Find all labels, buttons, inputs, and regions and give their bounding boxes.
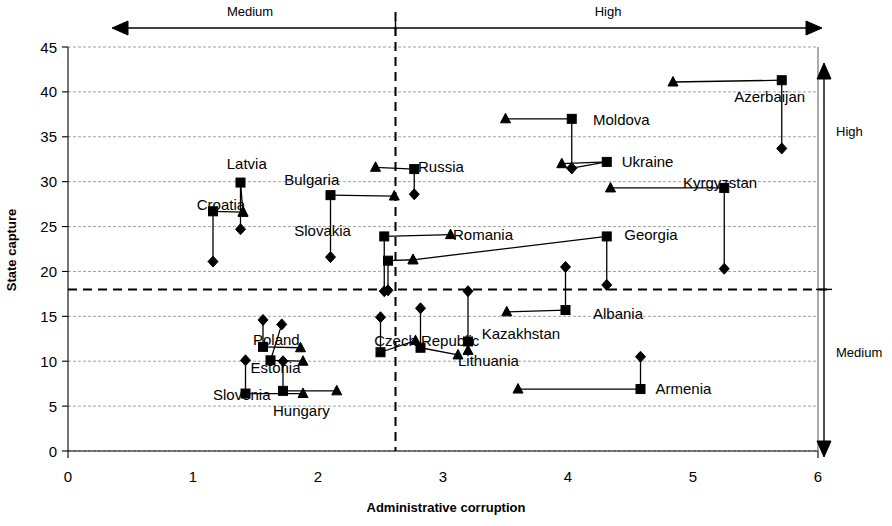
marker-diamond [326,252,336,263]
y-tick-label: 15 [40,308,57,325]
right-axis-high-label: High [836,124,863,139]
marker-triangle [501,113,511,123]
marker-square [236,178,245,187]
marker-triangle [389,191,399,201]
country-label: Poland [253,331,300,348]
country-labels: CroatiaLatviaBulgariaSlovakiaRussiaRoman… [197,88,805,419]
x-tick-label: 2 [314,468,322,485]
y-tick-label: 30 [40,173,57,190]
connector-horizontal [384,235,450,237]
country-label: Moldova [593,111,650,128]
country-label: Ukraine [622,153,674,170]
country-label: Hungary [273,402,330,419]
y-tick-label: 10 [40,353,57,370]
y-tick-label: 20 [40,263,57,280]
top-arrow-left-head [112,21,128,35]
y-tick-label: 35 [40,128,57,145]
marker-diamond [777,143,787,154]
right-arrow-down-head [817,441,831,457]
x-tick-label: 5 [689,468,697,485]
marker-triangle [606,182,616,192]
x-tick-label: 6 [814,468,822,485]
marker-square [602,232,611,241]
country-label: Kyrgyzstan [683,174,757,191]
country-label: Czech Republic [374,332,480,349]
country-label: Bulgaria [284,171,340,188]
right-axis-medium-label: Medium [836,345,882,360]
marker-square [602,157,611,166]
y-tick-label: 25 [40,218,57,235]
marker-square [561,306,570,315]
marker-square [567,114,576,123]
x-tick-label: 4 [564,468,572,485]
country-label: Armenia [656,380,713,397]
country-label: Kazakhstan [482,325,560,342]
top-arrow-right-head [806,21,822,35]
y-tick-label: 0 [49,443,57,460]
marker-diamond [241,355,251,366]
marker-diamond [409,189,419,200]
country-label: Russia [418,158,465,175]
marker-diamond [567,163,577,174]
right-arrow-up-head [817,63,831,79]
marker-diamond [277,319,287,330]
y-tick-label: 40 [40,83,57,100]
chart-container: CroatiaLatviaBulgariaSlovakiaRussiaRoman… [0,0,892,526]
connector-horizontal [507,310,566,312]
country-label: Croatia [197,196,246,213]
marker-diamond [376,312,386,323]
marker-diamond [463,286,473,297]
country-label: Albania [593,305,644,322]
scatter-chart: CroatiaLatviaBulgariaSlovakiaRussiaRoman… [0,0,892,526]
country-label: Georgia [624,226,678,243]
country-label: Romania [453,226,514,243]
country-label: Latvia [227,155,268,172]
axes: 0510152025303540450123456 [40,39,822,486]
marker-square [636,385,645,394]
top-axis-medium-label: Medium [227,4,273,19]
x-tick-label: 1 [189,468,197,485]
marker-triangle [371,162,381,172]
marker-diamond [236,224,246,235]
y-axis-title: State capture [4,209,19,291]
marker-diamond [636,351,646,362]
marker-triangle [668,77,678,87]
connector-horizontal [376,167,415,169]
marker-square [777,76,786,85]
x-tick-label: 3 [439,468,447,485]
y-tick-label: 5 [49,398,57,415]
x-axis-title: Administrative corruption [367,500,526,515]
marker-square [279,386,288,395]
marker-diamond [719,263,729,274]
marker-triangle [332,385,342,395]
marker-square [384,256,393,265]
country-label: Azerbaijan [734,88,805,105]
country-label: Slovakia [294,222,351,239]
marker-diamond [208,256,218,267]
y-tick-label: 45 [40,39,57,56]
marker-diamond [416,303,426,314]
country-label: Slovenia [213,386,271,403]
marker-square [380,232,389,241]
top-axis-high-label: High [595,4,622,19]
x-tick-label: 0 [64,468,72,485]
connector-horizontal [331,195,395,196]
country-label: Estonia [251,359,302,376]
marker-diamond [561,261,571,272]
country-label: Lithuania [458,352,520,369]
connector-horizontal [673,80,782,82]
marker-square [326,191,335,200]
marker-triangle [298,388,308,398]
marker-triangle [513,384,523,394]
